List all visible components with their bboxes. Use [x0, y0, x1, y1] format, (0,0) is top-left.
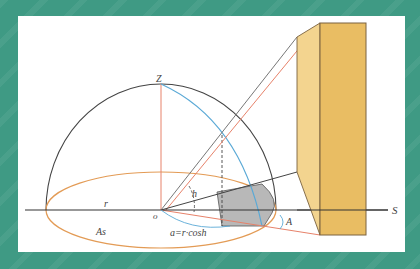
label-zenith: Z	[156, 73, 162, 84]
sun-geometry-diagram: Z o r h A S As a=r·cosh	[0, 0, 420, 269]
label-south: S	[392, 204, 398, 216]
label-shadow-area: As	[95, 226, 106, 237]
box-side	[297, 23, 320, 235]
label-radius: r	[104, 198, 108, 209]
box-front	[320, 23, 366, 235]
label-origin: o	[153, 211, 158, 221]
azimuth-angle-arc	[280, 215, 283, 229]
label-formula: a=r·cosh	[170, 227, 206, 238]
sun-ray-gray	[161, 37, 297, 210]
label-azimuth: A	[285, 216, 293, 227]
label-altitude: h	[192, 188, 197, 199]
